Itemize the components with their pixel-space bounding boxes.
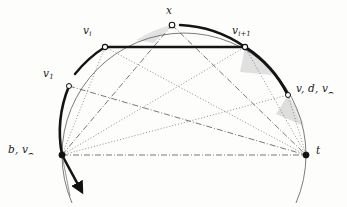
label-v1-subscript: 1 [49,73,53,81]
label-x: x [166,5,172,16]
line-b-to-vdv [62,95,288,155]
label-vi1: vi+1 [232,25,251,38]
point-vi1[interactable] [242,44,247,49]
label-bv-subscript: ⌢ [28,148,34,158]
arc-b-to-v1 [60,86,69,155]
point-vdv[interactable] [286,93,291,98]
label-x-text: x [166,4,172,16]
line-vi1-to-t [245,47,306,155]
base-circle [62,33,306,203]
wedge-below-vi1 [240,47,272,75]
point-x[interactable] [169,22,175,28]
line-vi-to-t [105,47,306,155]
arrow-shaft [62,155,82,192]
vertex-markers [59,22,309,158]
label-t-text: t [316,144,320,156]
label-v1: v1 [43,68,54,81]
point-v1[interactable] [67,84,72,89]
label-vdv-text: v, d, v [296,82,328,94]
label-vdv: v, d, v⌢ [296,83,334,96]
label-vi: vi [83,25,91,38]
bold-arc-pieces [60,25,288,155]
line-b-to-x [62,25,172,155]
wedge-near-vdv [276,95,302,125]
point-b[interactable] [59,152,65,158]
point-t[interactable] [303,152,309,158]
connector-lines [62,25,306,155]
figure-container: x vi vi+1 v1 v, d, v⌢ b, v⌢ t [0,0,347,207]
point-vi[interactable] [102,44,107,49]
label-vi1-subscript: i+1 [238,30,251,38]
label-vdv-subscript: ⌢ [328,87,334,97]
diagram-canvas [0,0,347,207]
label-bv: b, v⌢ [8,144,34,157]
arc-v1-to-vi [75,47,105,74]
bold-arrow-below-b [62,155,82,196]
label-vi-subscript: i [89,30,91,38]
label-t: t [316,145,320,156]
line-b-to-vi1 [62,47,245,155]
label-bv-text: b, v [8,143,28,155]
